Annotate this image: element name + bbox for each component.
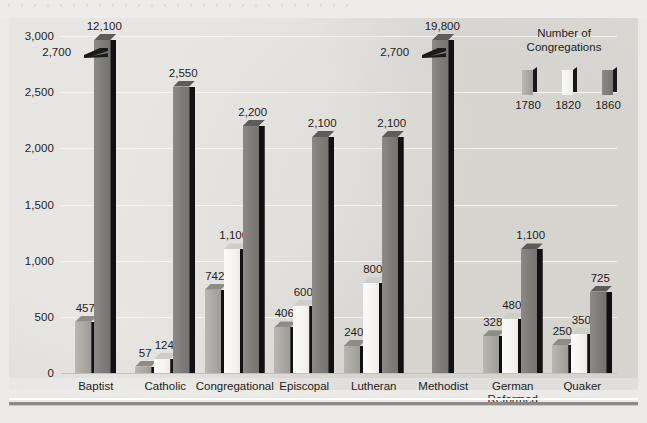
bar-face xyxy=(432,40,448,373)
y-axis-tick-label: 500 xyxy=(35,311,55,323)
y-axis-tick-label: 2,000 xyxy=(25,142,54,154)
bar-value-label: 2,550 xyxy=(169,67,198,79)
bar-face xyxy=(293,306,309,373)
bar-face xyxy=(312,137,328,373)
bar-lutheran-1780[interactable] xyxy=(344,346,360,373)
bar-group: 571242,550Catholic xyxy=(131,36,201,373)
category-label: Episcopal xyxy=(279,380,329,393)
legend-swatch-1820 xyxy=(562,70,573,95)
bar-side-shadow xyxy=(189,87,195,373)
footer-rule-light xyxy=(9,398,638,400)
category-label-line: Catholic xyxy=(144,380,186,393)
bar-side-shadow xyxy=(259,126,265,373)
bar-face xyxy=(382,137,398,373)
bar-side-shadow xyxy=(448,40,454,373)
category-label: Methodist xyxy=(418,380,468,393)
axis-break-value-label: 2,700 xyxy=(380,46,409,58)
bar-methodist-1860[interactable] xyxy=(432,40,448,373)
page-top-margin xyxy=(0,0,647,18)
y-axis-tick-label: 2,500 xyxy=(25,86,54,98)
bar-baptist-1860[interactable] xyxy=(94,40,110,373)
bar-face xyxy=(224,249,240,373)
bar-catholic-1780[interactable] xyxy=(135,367,151,373)
bar-congregational-1780[interactable] xyxy=(205,290,221,373)
bar-face xyxy=(590,292,606,373)
category-label: Quaker xyxy=(563,380,601,393)
legend-swatch-shadow xyxy=(573,67,577,92)
bar-value-label: 2,100 xyxy=(377,117,406,129)
legend-title-line1: Number of xyxy=(500,27,628,41)
bar-value-label: 800 xyxy=(363,263,382,275)
bar-lutheran-1820[interactable] xyxy=(363,283,379,373)
axis-baseline xyxy=(61,373,617,374)
bar-lutheran-1860[interactable] xyxy=(382,137,398,373)
category-label: Lutheran xyxy=(351,380,396,393)
bar-value-label: 1,100 xyxy=(516,229,545,241)
category-label: Catholic xyxy=(144,380,186,393)
legend-key-label-1860: 1860 xyxy=(595,99,621,111)
footer-rule-thin xyxy=(9,405,638,406)
bar-face xyxy=(363,283,379,373)
legend-key-label-1820: 1820 xyxy=(555,99,581,111)
bar-value-label: 480 xyxy=(502,299,521,311)
bar-quaker-1860[interactable] xyxy=(590,292,606,373)
bar-german-reformed-1820[interactable] xyxy=(502,319,518,373)
legend-swatch-face xyxy=(602,70,613,95)
chart-page: 05001,0001,5002,0002,5003,000 45712,1002… xyxy=(0,0,647,423)
bar-catholic-1860[interactable] xyxy=(173,87,189,373)
bar-value-label: 406 xyxy=(275,307,294,319)
bar-face xyxy=(135,367,151,373)
legend-swatch-face xyxy=(562,70,573,95)
bar-value-label: 600 xyxy=(294,286,313,298)
category-label-line: German xyxy=(488,380,539,393)
bar-episcopal-1820[interactable] xyxy=(293,306,309,373)
bar-face xyxy=(205,290,221,373)
bar-value-label: 2,200 xyxy=(238,106,267,118)
legend-swatch-1780 xyxy=(522,70,533,95)
category-label-line: Baptist xyxy=(78,380,113,393)
bar-value-label: 328 xyxy=(483,316,502,328)
legend-swatch-1860 xyxy=(602,70,613,95)
bar-congregational-1860[interactable] xyxy=(243,126,259,373)
bar-face xyxy=(521,249,537,373)
bar-face xyxy=(173,87,189,373)
bar-quaker-1780[interactable] xyxy=(552,345,568,373)
bar-value-label: 725 xyxy=(591,272,610,284)
bar-baptist-1780[interactable] xyxy=(75,322,91,373)
category-label-line: Lutheran xyxy=(351,380,396,393)
bar-group: 7421,1002,200Congregational xyxy=(200,36,270,373)
legend-key-label-1780: 1780 xyxy=(515,99,541,111)
legend-swatch-face xyxy=(522,70,533,95)
category-label-line: Episcopal xyxy=(279,380,329,393)
bar-face xyxy=(243,126,259,373)
bar-value-label: 19,800 xyxy=(425,20,460,32)
bar-group: 45712,1002,700Baptist xyxy=(61,36,131,373)
bar-group: 2408002,100Lutheran xyxy=(339,36,409,373)
bar-group: 19,8002,700Methodist xyxy=(409,36,479,373)
legend-swatch-shadow xyxy=(533,67,537,92)
y-axis-tick-label: 1,500 xyxy=(25,199,54,211)
bar-catholic-1820[interactable] xyxy=(154,359,170,373)
bar-value-label: 457 xyxy=(76,302,95,314)
bar-value-label: 742 xyxy=(205,270,224,282)
bar-side-shadow xyxy=(110,40,116,373)
y-axis-tick-label: 1,000 xyxy=(25,255,54,267)
legend: Number of Congregations 178018201860 xyxy=(500,27,628,113)
bar-side-shadow xyxy=(328,137,334,373)
bar-episcopal-1860[interactable] xyxy=(312,137,328,373)
bar-face xyxy=(75,322,91,373)
y-axis-tick-label: 0 xyxy=(48,367,55,379)
bar-side-shadow xyxy=(537,249,543,373)
category-label: Baptist xyxy=(78,380,113,393)
bar-face xyxy=(571,334,587,373)
bar-congregational-1820[interactable] xyxy=(224,249,240,373)
bar-face xyxy=(502,319,518,373)
bar-quaker-1820[interactable] xyxy=(571,334,587,373)
bar-episcopal-1780[interactable] xyxy=(274,327,290,373)
bar-german-reformed-1780[interactable] xyxy=(483,336,499,373)
bar-value-label: 350 xyxy=(572,314,591,326)
bar-value-label: 2,100 xyxy=(308,117,337,129)
bar-face xyxy=(344,346,360,373)
axis-break-value-label: 2,700 xyxy=(42,46,71,58)
bar-german-reformed-1860[interactable] xyxy=(521,249,537,373)
